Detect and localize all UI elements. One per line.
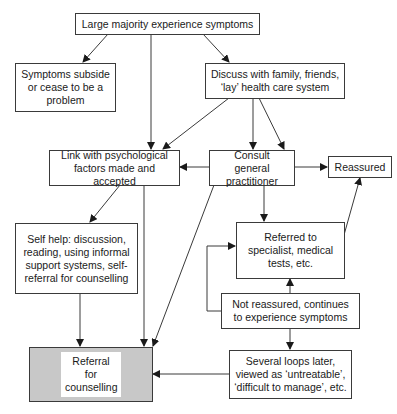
node-discuss: Discuss with family, friends, ‘lay’ heal…	[205, 63, 345, 99]
node-text: Consult general practitioner	[216, 149, 288, 188]
node-text: Self help: discussion, reading, using in…	[22, 233, 131, 285]
node-text: Symptoms subside or cease to be a proble…	[19, 68, 112, 107]
node-several-loops: Several loops later, viewed as ‘untreata…	[229, 350, 352, 399]
node-referred-specialist: Referred to specialist, medical tests, e…	[236, 222, 345, 279]
node-consult-gp: Consult general practitioner	[209, 150, 295, 186]
node-large-majority: Large majority experience symptoms	[75, 13, 260, 35]
node-text: Link with psychological factors made and…	[53, 149, 176, 188]
node-link-psychological: Link with psychological factors made and…	[49, 150, 180, 186]
node-text: Several loops later, viewed as ‘untreata…	[233, 355, 348, 394]
node-self-help: Self help: discussion, reading, using in…	[15, 223, 138, 294]
node-text: Referral for counselling	[65, 355, 118, 393]
node-text: Referred to specialist, medical tests, e…	[245, 231, 336, 270]
node-reassured: Reassured	[328, 156, 392, 178]
node-text: Discuss with family, friends, ‘lay’ heal…	[209, 68, 341, 94]
node-text: Reassured	[335, 161, 386, 174]
referral-label-panel: Referral for counselling	[61, 352, 121, 397]
node-symptoms-subside: Symptoms subside or cease to be a proble…	[15, 63, 116, 112]
node-text: Large majority experience symptoms	[82, 18, 254, 31]
node-not-reassured: Not reassured, continues to experience s…	[221, 293, 360, 329]
node-referral-counselling: Referral for counselling	[29, 347, 153, 402]
node-text: Not reassured, continues to experience s…	[230, 298, 351, 324]
